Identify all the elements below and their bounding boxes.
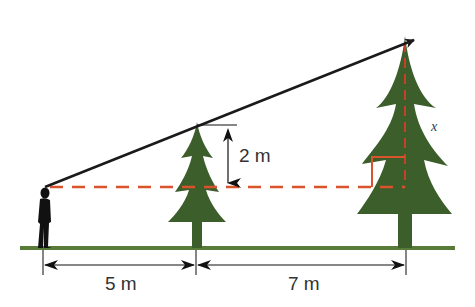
label-x: x: [430, 119, 438, 134]
ground-line: [20, 246, 455, 250]
person-silhouette: [38, 188, 52, 249]
label-2m: 2 m: [239, 145, 271, 166]
sightline-arrow: [45, 40, 414, 187]
distance-dimension-7m: 7 m: [198, 265, 404, 294]
distance-dimension-5m: 5 m: [45, 265, 194, 294]
small-tree: [168, 122, 226, 248]
dimension-ticks: [43, 250, 406, 275]
height-dimension-2m: 2 m: [223, 128, 271, 183]
diagram-canvas: 2 m x 5 m 7 m: [0, 0, 475, 307]
label-7m: 7 m: [288, 273, 320, 294]
label-5m: 5 m: [105, 273, 137, 294]
